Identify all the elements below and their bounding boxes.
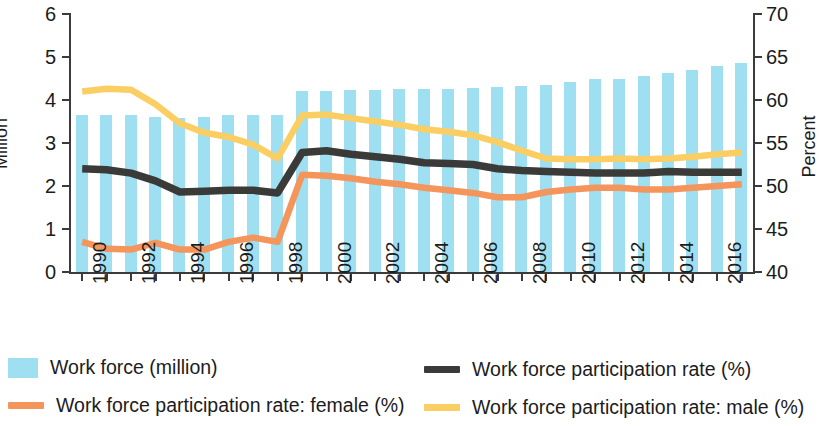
- x-axis-tick-label: 2014: [677, 242, 696, 284]
- legend-item-participation-male: Work force participation rate: male (%): [424, 396, 804, 419]
- x-axis-tick: [668, 274, 670, 281]
- legend-swatch-line-total: [424, 366, 460, 373]
- y-axis-right-tick: [755, 56, 762, 58]
- y-axis-left-tick: [62, 228, 69, 230]
- x-axis-tick: [81, 274, 83, 281]
- y-axis-right-title: Percent: [799, 115, 820, 177]
- x-axis-tick-label: 2008: [530, 242, 549, 284]
- x-axis-tick: [326, 274, 328, 281]
- y-axis-left-tick: [62, 13, 69, 15]
- y-axis-right-tick-label: 60: [766, 90, 812, 110]
- y-axis-left-tick-label: 0: [10, 262, 56, 282]
- x-axis-tick: [228, 274, 230, 281]
- x-axis-tick: [619, 274, 621, 281]
- x-axis-tick-label: 1996: [237, 242, 256, 284]
- x-axis-tick: [277, 274, 279, 281]
- y-axis-right-tick-label: 70: [766, 4, 812, 24]
- x-axis-tick-label: 2010: [579, 242, 598, 284]
- x-axis-tick: [374, 274, 376, 281]
- legend-label-participation-male: Work force participation rate: male (%): [472, 396, 804, 419]
- line-series-group: [70, 14, 754, 272]
- x-axis-tick: [472, 274, 474, 281]
- legend-label-participation-total: Work force participation rate (%): [472, 358, 751, 381]
- legend-swatch-line-female: [8, 402, 44, 409]
- x-axis-tick: [521, 274, 523, 281]
- legend-item-participation-total: Work force participation rate (%): [424, 358, 751, 381]
- line-participation-male: [82, 89, 742, 160]
- legend-swatch-line-male: [424, 404, 460, 411]
- x-axis-tick-label: 2000: [335, 242, 354, 284]
- y-axis-right-tick: [755, 99, 762, 101]
- y-axis-left-tick-label: 4: [10, 90, 56, 110]
- y-axis-right-tick-label: 50: [766, 176, 812, 196]
- y-axis-left-tick: [62, 271, 69, 273]
- y-axis-right-tick: [755, 271, 762, 273]
- y-axis-right-tick-label: 45: [766, 219, 812, 239]
- y-axis-right-tick: [755, 185, 762, 187]
- x-axis-tick: [130, 274, 132, 281]
- y-axis-left-tick: [62, 99, 69, 101]
- legend-label-participation-female: Work force participation rate: female (%…: [56, 394, 405, 417]
- y-axis-left-tick: [62, 56, 69, 58]
- y-axis-right-tick: [755, 228, 762, 230]
- y-axis-left-tick: [62, 185, 69, 187]
- legend-swatch-box-work-force: [8, 358, 38, 378]
- y-axis-left-tick-label: 2: [10, 176, 56, 196]
- chart-legend: Work force (million) Work force particip…: [0, 352, 824, 426]
- x-axis-tick-label: 2002: [383, 242, 402, 284]
- y-axis-left-tick-label: 3: [10, 133, 56, 153]
- x-axis-tick-label: 1990: [90, 242, 109, 284]
- x-axis-tick: [570, 274, 572, 281]
- y-axis-left-tick-label: 5: [10, 47, 56, 67]
- legend-label-work-force: Work force (million): [50, 356, 218, 379]
- y-axis-left-tick-label: 1: [10, 219, 56, 239]
- y-axis-right-tick: [755, 13, 762, 15]
- y-axis-left-tick-label: 6: [10, 4, 56, 24]
- legend-item-work-force: Work force (million): [8, 356, 218, 379]
- y-axis-right-tick-label: 65: [766, 47, 812, 67]
- x-axis-tick-label: 1998: [286, 242, 305, 284]
- y-axis-left-title: Million: [0, 118, 12, 169]
- line-participation-female: [82, 175, 742, 250]
- y-axis-right-tick: [755, 142, 762, 144]
- x-axis-line: [69, 272, 755, 274]
- x-axis-tick-label: 1994: [188, 242, 207, 284]
- y-axis-left-tick: [62, 142, 69, 144]
- y-axis-right-tick-label: 40: [766, 262, 812, 282]
- x-axis-tick: [423, 274, 425, 281]
- chart-figure: 0123456 40455055606570 19901992199419961…: [0, 0, 824, 426]
- x-axis-tick-label: 2006: [481, 242, 500, 284]
- x-axis-tick-label: 2016: [725, 242, 744, 284]
- chart-plot-area: 0123456 40455055606570 19901992199419961…: [0, 0, 824, 350]
- x-axis-tick-label: 1992: [139, 242, 158, 284]
- x-axis-tick-label: 2004: [432, 242, 451, 284]
- x-axis-tick: [716, 274, 718, 281]
- x-axis-tick: [179, 274, 181, 281]
- legend-item-participation-female: Work force participation rate: female (%…: [8, 394, 405, 417]
- x-axis-tick-label: 2012: [628, 242, 647, 284]
